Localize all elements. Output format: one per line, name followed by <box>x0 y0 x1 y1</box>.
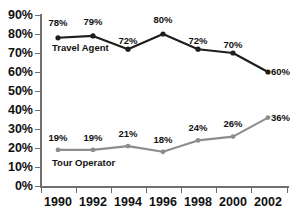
data-label-tour-operator-1992: 19% <box>83 133 102 143</box>
data-label-tour-operator-2000: 26% <box>223 119 242 129</box>
data-point <box>161 149 166 154</box>
data-label-tour-operator-1994: 21% <box>118 129 137 139</box>
data-point <box>196 138 201 143</box>
data-point <box>55 35 60 40</box>
data-point <box>195 47 200 52</box>
data-label-travel-agent-1994: 72% <box>118 36 137 46</box>
data-label-tour-operator-1998: 24% <box>188 123 207 133</box>
data-point <box>266 115 271 120</box>
series-label-travel-agent: Travel Agent <box>52 43 109 53</box>
data-label-travel-agent-1990: 78% <box>48 18 67 28</box>
plot-area <box>0 0 304 223</box>
data-point <box>230 50 235 55</box>
data-label-travel-agent-1998: 72% <box>188 36 207 46</box>
data-point <box>265 69 270 74</box>
data-point <box>90 33 95 38</box>
data-point <box>56 148 61 153</box>
data-label-travel-agent-2000: 70% <box>223 40 242 50</box>
series-label-tour-operator: Tour Operator <box>52 158 115 168</box>
data-label-tour-operator-2002: 36% <box>271 113 290 123</box>
data-point <box>91 148 96 153</box>
data-label-tour-operator-1996: 18% <box>153 135 172 145</box>
data-label-travel-agent-2002: 60% <box>271 67 290 77</box>
data-label-travel-agent-1992: 79% <box>83 17 102 27</box>
data-point <box>231 134 236 139</box>
data-point <box>126 144 131 149</box>
data-point <box>160 31 165 36</box>
data-label-tour-operator-1990: 19% <box>48 133 67 143</box>
data-point <box>125 47 130 52</box>
series-markers-travel-agent <box>55 31 270 74</box>
data-label-travel-agent-1996: 80% <box>153 15 172 25</box>
line-chart: 90% 80% 70% 60% 50% 40% 30% 20% 10% 0% 1… <box>0 0 304 223</box>
